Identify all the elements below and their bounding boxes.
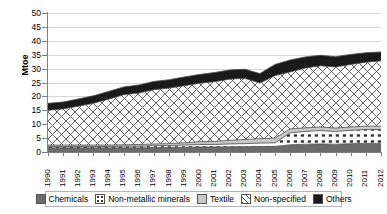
y-axis-tick [42, 13, 47, 14]
x-axis-labels: 1990199119921993199419951996199719981999… [48, 154, 381, 188]
x-axis-tick [366, 152, 367, 156]
y-axis-tick [42, 69, 47, 70]
y-axis-line [47, 12, 48, 153]
x-axis-tick-label: 2001 [210, 169, 218, 187]
y-axis-tick [42, 124, 47, 125]
x-axis-tick-label: 2007 [301, 169, 309, 187]
x-axis-tick-label: 1990 [44, 169, 52, 187]
x-axis-tick [320, 152, 321, 156]
x-axis-tick-label: 2008 [316, 169, 324, 187]
chart-legend: ChemicalsNon-metallic mineralsTextileNon… [45, 191, 342, 207]
x-axis-tick [48, 152, 49, 156]
x-axis-tick [381, 152, 382, 156]
legend-item[interactable]: Non-metallic minerals [95, 194, 190, 204]
x-axis-tick [215, 152, 216, 156]
y-axis-tick-label: 0 [1, 148, 41, 157]
x-axis-tick [336, 152, 337, 156]
y-axis-tick [42, 96, 47, 97]
x-axis-tick [351, 152, 352, 156]
x-axis-tick-label: 2004 [255, 169, 263, 187]
x-axis-tick [63, 152, 64, 156]
x-axis-tick [139, 152, 140, 156]
y-axis-tick-label: 50 [1, 9, 41, 18]
x-axis-tick-label: 1999 [180, 169, 188, 187]
y-axis-tick-label: 35 [1, 51, 41, 60]
x-axis-tick [78, 152, 79, 156]
y-axis-tick-label: 20 [1, 92, 41, 101]
chart-container: Mtoe 05101520253035404550 19901991199219… [0, 0, 387, 214]
y-axis-tick [42, 41, 47, 42]
x-axis-tick [245, 152, 246, 156]
x-axis-tick [199, 152, 200, 156]
legend-item[interactable]: Chemicals [36, 194, 89, 204]
y-axis-tick-label: 5 [1, 134, 41, 143]
x-axis-tick-label: 1995 [119, 169, 127, 187]
x-axis-tick-label: 2006 [286, 169, 294, 187]
x-axis-tick [275, 152, 276, 156]
y-axis-tick-label: 40 [1, 37, 41, 46]
y-axis-tick-label: 15 [1, 106, 41, 115]
x-axis-tick-label: 1996 [134, 169, 142, 187]
x-axis-tick-label: 2005 [271, 169, 279, 187]
legend-label: Others [326, 195, 352, 204]
legend-swatch-icon [241, 194, 251, 204]
y-axis-tick-label: 45 [1, 23, 41, 32]
x-axis-tick-label: 2009 [331, 169, 339, 187]
legend-label: Textile [210, 195, 234, 204]
y-axis-tick [42, 55, 47, 56]
x-axis-tick-label: 2003 [240, 169, 248, 187]
x-axis-tick-label: 2002 [225, 169, 233, 187]
y-axis-tick [42, 138, 47, 139]
x-axis-tick [290, 152, 291, 156]
y-axis-tick-label: 10 [1, 120, 41, 129]
y-axis-tick [42, 110, 47, 111]
stacked-area-series [48, 13, 381, 152]
x-axis-tick-label: 1994 [104, 169, 112, 187]
x-axis-tick-label: 1993 [89, 169, 97, 187]
y-axis-tick-label: 25 [1, 79, 41, 88]
x-axis-tick [93, 152, 94, 156]
x-axis-tick-label: 1997 [149, 169, 157, 187]
y-axis-tick [42, 152, 47, 153]
legend-swatch-icon [36, 194, 46, 204]
legend-label: Non-specified [254, 195, 306, 204]
x-axis-tick-label: 2000 [195, 169, 203, 187]
x-axis-tick [124, 152, 125, 156]
x-axis-tick [109, 152, 110, 156]
x-axis-tick [230, 152, 231, 156]
x-axis-tick-label: 2011 [361, 170, 369, 187]
legend-swatch-icon [313, 194, 323, 204]
y-axis-tick [42, 27, 47, 28]
legend-item[interactable]: Textile [197, 194, 234, 204]
legend-label: Non-metallic minerals [108, 195, 190, 204]
x-axis-tick [184, 152, 185, 156]
x-axis-tick-label: 2012 [377, 169, 385, 187]
x-axis-tick-label: 1991 [59, 169, 67, 187]
x-axis-tick-label: 1998 [165, 169, 173, 187]
y-axis-tick [42, 83, 47, 84]
legend-swatch-icon [95, 194, 105, 204]
y-axis-tick-label: 30 [1, 65, 41, 74]
x-axis-tick [305, 152, 306, 156]
x-axis-tick [154, 152, 155, 156]
legend-label: Chemicals [49, 195, 89, 204]
y-axis-labels: 05101520253035404550 [0, 0, 41, 214]
x-axis-tick [169, 152, 170, 156]
legend-item[interactable]: Others [313, 194, 352, 204]
legend-item[interactable]: Non-specified [241, 194, 306, 204]
x-axis-tick-label: 2010 [346, 169, 354, 187]
x-axis-tick [260, 152, 261, 156]
legend-swatch-icon [197, 194, 207, 204]
x-axis-tick-label: 1992 [74, 169, 82, 187]
